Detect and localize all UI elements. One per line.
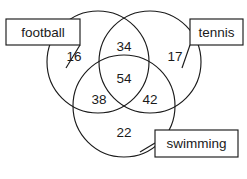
region-count-tennis-swimming: 42 bbox=[142, 92, 157, 107]
venn-diagram: 16 34 17 54 38 42 22 football tennis swi… bbox=[0, 0, 247, 179]
venn-diagram-canvas: 16 34 17 54 38 42 22 football tennis swi… bbox=[0, 0, 247, 179]
label-text-swimming: swimming bbox=[166, 136, 226, 151]
label-text-football: football bbox=[21, 25, 65, 40]
region-count-tennis-only: 17 bbox=[167, 49, 182, 64]
region-count-football-tennis: 34 bbox=[116, 39, 132, 54]
region-count-swimming-only: 22 bbox=[116, 125, 131, 140]
region-count-football-swimming: 38 bbox=[91, 92, 106, 107]
region-count-all-three: 54 bbox=[116, 71, 132, 86]
region-count-football-only: 16 bbox=[66, 49, 81, 64]
label-text-tennis: tennis bbox=[198, 25, 234, 40]
leader-line-tennis bbox=[182, 45, 190, 68]
